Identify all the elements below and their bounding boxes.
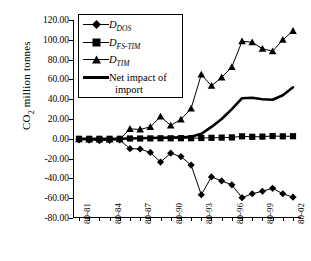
data-point <box>249 190 256 197</box>
data-point <box>289 194 296 201</box>
data-point <box>126 125 134 132</box>
y-tick-label: 40.00 <box>13 95 69 104</box>
data-point <box>208 135 214 141</box>
legend-label-d-dos: DDOS <box>109 19 131 35</box>
data-point <box>198 135 204 141</box>
y-tick-label: 60.00 <box>13 75 69 84</box>
y-tick-label: 20.00 <box>13 115 69 124</box>
legend-label-net-impact: Net impact of import <box>109 72 167 97</box>
y-tick-label: -20.00 <box>13 155 69 164</box>
data-point <box>218 177 225 184</box>
series-line <box>79 140 293 198</box>
y-tick-label: -80.00 <box>13 214 69 223</box>
legend-label-d-fs-tim: DFS-TIM <box>109 37 140 53</box>
data-point <box>219 135 225 141</box>
legend-item-d-dos: DDOS <box>83 19 179 34</box>
data-point <box>228 63 236 70</box>
legend-item-net-impact: Net impact of import <box>83 72 179 97</box>
y-tick-label: -60.00 <box>13 194 69 203</box>
triangle-marker-icon <box>83 54 109 66</box>
data-point <box>249 134 255 140</box>
data-point <box>208 173 215 180</box>
data-point <box>280 133 286 139</box>
y-tick-label: 80.00 <box>13 56 69 65</box>
diamond-marker-icon <box>83 19 109 31</box>
series-d-dos <box>75 136 296 201</box>
chart-container: CO2 million tonnes 120.00100.0080.0060.0… <box>0 0 311 261</box>
data-point <box>279 190 286 197</box>
data-point <box>157 113 165 120</box>
chart-legend: DDOS DFS-TIM DTIM <box>78 14 183 98</box>
data-point <box>198 191 205 198</box>
data-point <box>290 133 296 139</box>
thick-line-marker-icon <box>83 72 109 84</box>
legend-item-d-fs-tim: DFS-TIM <box>83 37 179 52</box>
data-point <box>197 71 205 78</box>
data-point <box>187 105 195 112</box>
square-marker-icon <box>83 37 109 49</box>
y-tick-label: 0.00 <box>13 135 69 144</box>
y-tick-label: 120.00 <box>13 16 69 25</box>
data-point <box>229 134 235 140</box>
data-point <box>269 185 276 192</box>
data-point <box>289 27 297 34</box>
y-tick <box>69 218 73 219</box>
data-point <box>270 133 276 139</box>
legend-label-d-tim: DTIM <box>109 54 130 70</box>
data-point <box>238 37 246 44</box>
data-point <box>259 188 266 195</box>
y-tick-label: 100.00 <box>13 36 69 45</box>
y-tick-label: -40.00 <box>13 174 69 183</box>
legend-item-d-tim: DTIM <box>83 54 179 69</box>
data-point <box>259 134 265 140</box>
data-point <box>259 45 267 52</box>
data-point <box>137 145 144 152</box>
data-point <box>239 133 245 139</box>
